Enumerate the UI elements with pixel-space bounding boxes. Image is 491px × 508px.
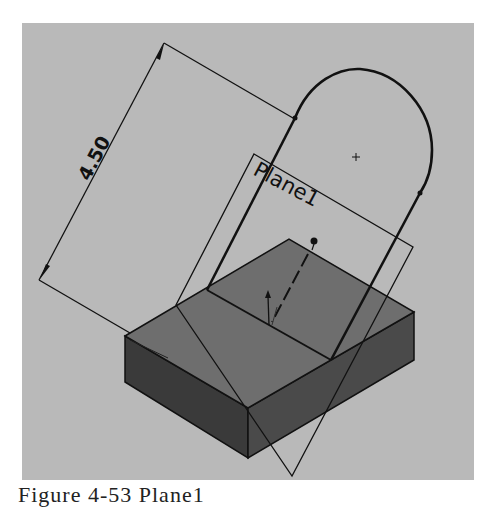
dimension-arrow-bottom-icon: [40, 264, 50, 279]
normal-point: [311, 238, 318, 245]
base-box[interactable]: [125, 239, 414, 458]
sketch-point-right: [418, 191, 423, 196]
dimension-value: 4.50: [73, 132, 114, 184]
arc-center-icon: [352, 153, 360, 161]
sketch-arc: [295, 69, 432, 193]
dimension-arrow-top-icon: [156, 44, 164, 60]
dimension-extension-top: [164, 43, 293, 118]
sketch-point-left: [293, 116, 298, 121]
figure-caption: Figure 4-53 Plane1: [18, 482, 205, 508]
dimension-extension-bottom: [39, 280, 130, 333]
